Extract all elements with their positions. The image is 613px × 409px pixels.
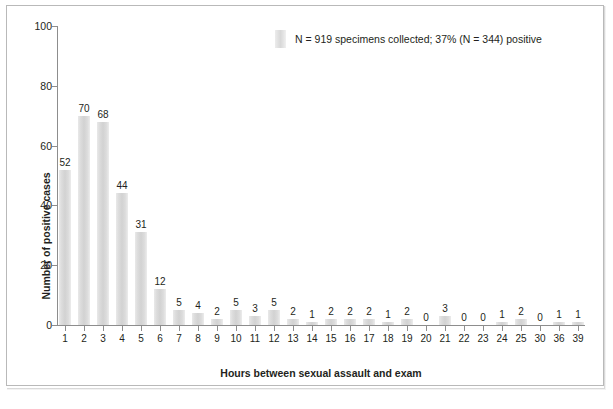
bar-4 [116,26,128,325]
x-tick-mark [540,326,541,331]
y-tick-mark [52,86,57,87]
legend-label: N = 919 specimens collected; 37% (N = 34… [295,33,542,45]
bar-rect [211,319,223,325]
y-tick-mark [52,26,57,27]
bar-rect [268,310,280,325]
x-tick-mark [141,326,142,331]
bar-11 [249,26,261,325]
bar-rect [382,322,394,325]
x-tick-mark [350,326,351,331]
bar-value-label: 31 [128,219,154,230]
x-tick-label: 39 [566,333,590,344]
bar-9 [211,26,223,325]
bar-8 [192,26,204,325]
chart-legend: N = 919 specimens collected; 37% (N = 34… [275,30,542,48]
bar-1 [59,26,71,325]
bar-23 [477,26,489,325]
bar-value-label: 52 [52,157,78,168]
bar-rect [78,116,90,325]
bar-14 [306,26,318,325]
bar-10 [230,26,242,325]
x-tick-mark [521,326,522,331]
y-tick-mark [52,205,57,206]
bar-rect [97,122,109,325]
x-tick-mark [236,326,237,331]
bar-30 [534,26,546,325]
x-tick-mark [369,326,370,331]
y-tick-mark [52,265,57,266]
bar-rect [135,232,147,325]
bar-rect [344,319,356,325]
bar-rect [515,319,527,325]
x-tick-mark [160,326,161,331]
bar-25 [515,26,527,325]
y-axis-title: Number of positive cases [40,126,52,346]
x-tick-mark [255,326,256,331]
bar-value-label: 68 [90,109,116,120]
bar-16 [344,26,356,325]
x-tick-mark [483,326,484,331]
plot-area: 020406080100 123456789101112131415161718… [0,0,613,409]
bar-rect [192,313,204,325]
y-axis-line [57,26,58,326]
bar-rect [154,289,166,325]
bar-22 [458,26,470,325]
bar-rect [59,170,71,325]
bar-21 [439,26,451,325]
bar-value-label: 44 [109,180,135,191]
bar-17 [363,26,375,325]
x-tick-mark [198,326,199,331]
x-tick-mark [445,326,446,331]
x-tick-mark [65,326,66,331]
bar-7 [173,26,185,325]
x-tick-mark [293,326,294,331]
x-tick-mark [464,326,465,331]
y-axis-title-host: Number of positive cases [18,80,32,300]
bar-rect [116,193,128,325]
bar-13 [287,26,299,325]
x-tick-mark [84,326,85,331]
bar-value-label: 1 [565,309,591,320]
x-tick-mark [312,326,313,331]
x-tick-mark [578,326,579,331]
bar-rect [325,319,337,325]
y-tick-mark [52,146,57,147]
bar-39 [572,26,584,325]
bar-3 [97,26,109,325]
bar-rect [439,316,451,325]
bar-5 [135,26,147,325]
x-tick-mark [502,326,503,331]
x-tick-mark [179,326,180,331]
x-tick-mark [407,326,408,331]
x-tick-mark [217,326,218,331]
bar-rect [249,316,261,325]
bar-20 [420,26,432,325]
x-axis-title: Hours between sexual assault and exam [57,367,585,379]
x-tick-mark [559,326,560,331]
x-tick-mark [426,326,427,331]
y-tick-mark [52,325,57,326]
bar-18 [382,26,394,325]
bar-rect [306,322,318,325]
bar-36 [553,26,565,325]
x-tick-mark [331,326,332,331]
x-tick-mark [388,326,389,331]
x-tick-mark [103,326,104,331]
bar-rect [363,319,375,325]
bar-rect [287,319,299,325]
bar-rect [401,319,413,325]
bar-15 [325,26,337,325]
bar-rect [553,322,565,325]
bar-value-label: 12 [147,276,173,287]
bar-rect [496,322,508,325]
y-tick-label: 100 [18,21,52,31]
bar-rect [173,310,185,325]
bar-2 [78,26,90,325]
bar-19 [401,26,413,325]
bar-rect [572,322,584,325]
bar-24 [496,26,508,325]
y-tick-100: 100 [0,21,52,31]
x-tick-mark [122,326,123,331]
x-tick-mark [274,326,275,331]
legend-swatch-icon [275,30,286,48]
